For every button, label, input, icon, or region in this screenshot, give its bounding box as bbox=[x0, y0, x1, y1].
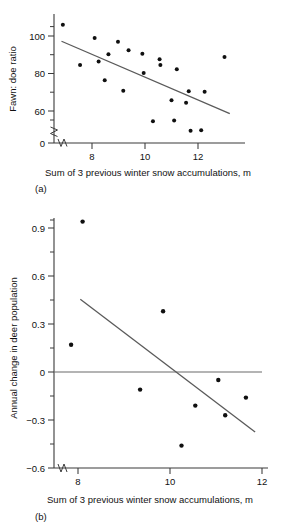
y-tick-label: 100 bbox=[29, 31, 45, 42]
data-points-a bbox=[61, 23, 227, 133]
x-tick-label: 8 bbox=[89, 151, 94, 162]
data-point bbox=[184, 101, 188, 105]
data-point bbox=[78, 63, 82, 67]
x-axis-title-b: Sum of 3 previous winter snow accumulati… bbox=[47, 494, 253, 505]
y-axis-title-b: Annual change in deer population bbox=[8, 277, 19, 419]
data-point bbox=[121, 89, 125, 93]
scatter-plot-b: 0.9 0.6 0.3 0 −0.3 −0.6 8 10 12 Annual c… bbox=[0, 190, 281, 530]
data-point bbox=[203, 90, 207, 94]
data-point bbox=[61, 23, 65, 27]
x-ticks-a bbox=[92, 143, 198, 149]
x-tick-label: 10 bbox=[165, 476, 176, 487]
y-tick-label: −0.6 bbox=[26, 463, 45, 474]
y-tick-label: 0.9 bbox=[32, 223, 45, 234]
x-tick-label: 10 bbox=[140, 151, 151, 162]
data-point bbox=[158, 63, 162, 67]
data-point bbox=[193, 403, 197, 407]
y-tick-label: 0 bbox=[40, 138, 45, 149]
data-point bbox=[158, 57, 162, 61]
data-point bbox=[69, 343, 73, 347]
data-point bbox=[138, 387, 142, 391]
data-point bbox=[116, 40, 120, 44]
data-point bbox=[179, 443, 183, 447]
x-axis-title-a: Sum of 3 previous winter snow accumulati… bbox=[45, 167, 251, 178]
x-tick-label: 8 bbox=[75, 476, 80, 487]
data-point bbox=[170, 98, 174, 102]
x-tick-label: 12 bbox=[193, 151, 204, 162]
data-point bbox=[97, 60, 101, 64]
x-tick-label: 12 bbox=[257, 476, 268, 487]
data-point bbox=[187, 89, 191, 93]
y-tick-label: 80 bbox=[34, 68, 45, 79]
data-point bbox=[172, 118, 176, 122]
x-axis-break-a bbox=[58, 139, 67, 147]
data-point bbox=[151, 119, 155, 123]
data-points-b bbox=[69, 219, 248, 447]
y-axis-title-a: Fawn: doe ratio bbox=[7, 46, 18, 111]
data-point bbox=[127, 48, 131, 52]
x-ticks-b bbox=[78, 468, 262, 474]
data-point bbox=[189, 129, 193, 133]
data-point bbox=[175, 67, 179, 71]
scatter-plot-a: 100 80 60 0 8 10 12 Fawn: doe ratio Sum … bbox=[0, 0, 281, 200]
chart-panel-a: 100 80 60 0 8 10 12 Fawn: doe ratio Sum … bbox=[0, 0, 281, 200]
data-point bbox=[142, 71, 146, 75]
data-point bbox=[244, 395, 248, 399]
data-point bbox=[103, 78, 107, 82]
data-point bbox=[106, 52, 110, 56]
x-axis-break-b bbox=[58, 464, 67, 472]
y-tick-label: 60 bbox=[34, 106, 45, 117]
data-point bbox=[93, 36, 97, 40]
y-tick-label: −0.3 bbox=[26, 415, 45, 426]
data-point bbox=[199, 128, 203, 132]
y-tick-label: 0 bbox=[40, 367, 45, 378]
panel-label-b: (b) bbox=[35, 511, 47, 522]
data-point bbox=[140, 52, 144, 56]
data-point bbox=[216, 378, 220, 382]
regression-line-b bbox=[80, 299, 255, 432]
y-tick-label: 0.3 bbox=[32, 319, 45, 330]
data-point bbox=[223, 55, 227, 59]
chart-panel-b: 0.9 0.6 0.3 0 −0.3 −0.6 8 10 12 Annual c… bbox=[0, 190, 281, 530]
data-point bbox=[80, 219, 84, 223]
regression-line-a bbox=[62, 41, 230, 113]
data-point bbox=[223, 413, 227, 417]
data-point bbox=[161, 309, 165, 313]
y-minor-ticks-b bbox=[50, 220, 54, 444]
y-axis-break-a bbox=[51, 127, 58, 137]
y-tick-label: 0.6 bbox=[32, 271, 45, 282]
